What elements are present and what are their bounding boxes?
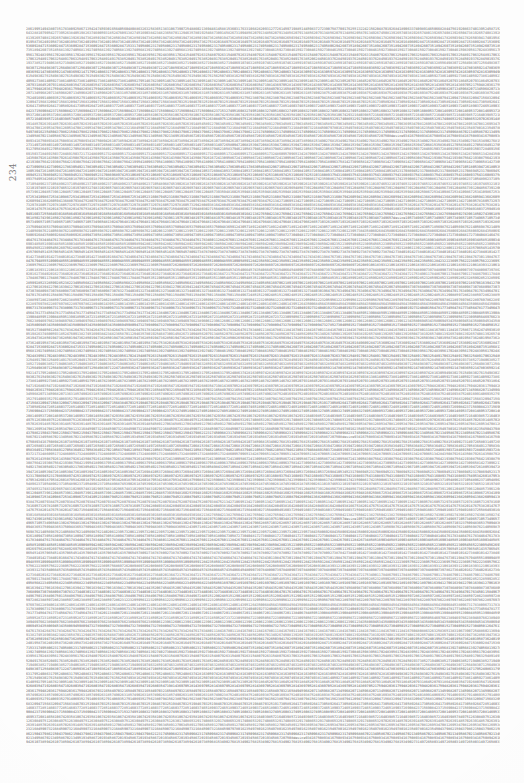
numeric-table-row: 9084237156908423715690842371569084237156… (26, 710, 500, 714)
numeric-table-row: 1476753820147675382014730271564803027156… (26, 508, 500, 512)
numeric-table-row: 2369575622236957562223695756222369575622… (26, 263, 500, 267)
margin-page-number-label: 234 (8, 163, 18, 181)
numeric-table-row: 9127058364912705836491270583649127058364… (26, 147, 500, 151)
numeric-table-row: 6178344647617834464761783446476178344647… (26, 538, 500, 542)
numeric-table-row: 8395617024839561702483956170241548079263… (26, 654, 500, 658)
numeric-table-row: 0654514357065451435706545143570654514357… (26, 551, 500, 555)
numeric-table-block: 2861995149438073517838092586713542474593… (26, 27, 500, 746)
numeric-table-row: 6154983027615498302761549830276154983027… (26, 74, 500, 78)
numeric-table-row: 9426107385942610738594261073859426107385… (26, 740, 500, 744)
numeric-table-row: 9140693527914069352791406935279140693527… (26, 697, 500, 701)
numeric-table-row: 2738614059273861405927386140592795146782… (26, 379, 500, 383)
numeric-table-row: 8573961204857396120485739612048573961204… (26, 190, 500, 194)
numeric-table-row: 8572164039857216403985784975126308497512… (26, 117, 500, 121)
numeric-table-row: 9264173058926417305892641730589264728514… (26, 104, 500, 108)
numeric-table-row: 5806926843580692684358069261809473058180… (26, 233, 500, 237)
numeric-table-row: 8069453435806945343580694598094732789809… (26, 624, 500, 628)
numeric-table-row: 8570263914857026391485702639148570263914… (26, 422, 500, 426)
numeric-table-row: 5867021349586702134958670213495867021349… (26, 435, 500, 439)
numeric-table-row: 5492178630549217863054921786305492178630… (26, 465, 500, 469)
scanned-page: 234 286199514943807351783809258671354247… (0, 0, 524, 783)
numeric-table-row: 0967317838096731783809673178380967317838… (26, 306, 500, 310)
numeric-table-row: 4219308756421930875642193087564219308756… (26, 160, 500, 164)
numeric-table-row: 4958568223495856822349585682234958568223… (26, 581, 500, 585)
numeric-table-row: 6432881079054277395263840519826374600593… (26, 31, 500, 35)
margin-page-number: 234 (2, 146, 24, 198)
numeric-table-row: 1784867901178486790117848679011784867901… (26, 276, 500, 280)
numeric-table-row: 6498307125649830712247108593624710859362… (26, 667, 500, 671)
numeric-table-row: 3459682071345968207136318574902631857490… (26, 392, 500, 396)
numeric-table-row: 0568139274056813927405681392740568139274… (26, 349, 500, 353)
